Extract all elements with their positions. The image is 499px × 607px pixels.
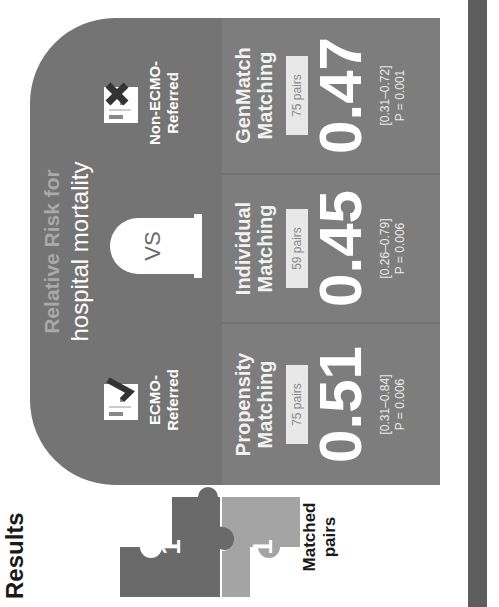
relative-risk-value: 0.51 [310,324,372,485]
puzzle-number-top: 1 [155,539,186,555]
confidence-interval: [0.31–0.72] [378,18,393,173]
p-value: P = 0.006 [393,175,408,322]
section-title: Results [0,499,30,599]
results-infographic: Results 1 1 Matched pairs Relative Risk … [0,0,499,607]
panel-title-line1: Relative Risk for [40,18,64,485]
pairs-badge: 59 pairs [286,209,308,288]
x-document-icon [100,81,140,125]
matched-pairs-label: Matched pairs [300,487,340,587]
p-value: P = 0.001 [393,18,408,173]
pairs-badge: 75 pairs [286,56,308,135]
footer-bar [468,0,487,607]
method-line2: Matching [254,324,276,485]
group-label-line2: Referred [164,345,182,455]
method-line1: Propensity [232,324,254,485]
method-line1: GenMatch [232,18,254,173]
matched-pairs-puzzle-icon: 1 1 [110,487,310,607]
pairs-badge: 75 pairs [286,365,308,444]
relative-risk-value: 0.45 [310,175,372,322]
p-value: P = 0.006 [393,324,408,485]
confidence-interval: [0.26–0.79] [378,175,393,322]
card-genmatch-matching: GenMatch Matching 75 pairs 0.47 [0.31–0.… [222,18,440,173]
check-document-icon [100,378,140,422]
group-label-line1: ECMO- [146,345,164,455]
panel-title-line2: hospital mortality [66,18,94,485]
card-individual-matching: Individual Matching 59 pairs 0.45 [0.26–… [222,175,440,322]
group-label-line2: Referred [164,48,182,158]
group-ecmo-referred: ECMO- Referred [100,345,182,455]
group-non-ecmo-referred: Non-ECMO- Referred [100,48,182,158]
group-label-line1: Non-ECMO- [146,48,164,158]
method-line2: Matching [254,18,276,173]
vs-label: VS [140,231,165,260]
confidence-interval: [0.31–0.84] [378,324,393,485]
results-cards: Propensity Matching 75 pairs 0.51 [0.31–… [222,18,440,485]
relative-risk-value: 0.47 [310,18,372,173]
puzzle-number-bottom: 1 [247,539,278,555]
method-line1: Individual [232,175,254,322]
method-line2: Matching [254,175,276,322]
vs-tombstone-icon: VS [102,214,202,278]
card-propensity-matching: Propensity Matching 75 pairs 0.51 [0.31–… [222,324,440,485]
relative-risk-panel: Relative Risk for hospital mortality ECM… [30,18,440,485]
